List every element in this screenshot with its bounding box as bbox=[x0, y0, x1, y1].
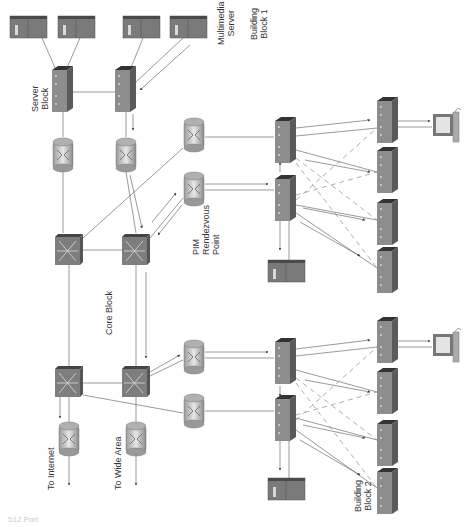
access-2c-icon bbox=[377, 420, 398, 466]
core-switch-1-icon bbox=[55, 234, 83, 265]
to-internet-label: To Internet bbox=[46, 447, 56, 490]
figure-caption: 512 Port bbox=[8, 515, 38, 524]
pim-rendezvous-point-label: PIM Rendezvous Point bbox=[191, 205, 221, 255]
multimedia-server-icon bbox=[170, 16, 207, 38]
core-switch-2-icon bbox=[122, 234, 150, 265]
pc-block2-icon bbox=[433, 328, 461, 362]
pc-block1-icon bbox=[433, 108, 461, 142]
access-1d-icon bbox=[377, 247, 398, 293]
dist-1a-icon bbox=[275, 117, 296, 163]
multimedia-server-label: Multimedia Server bbox=[216, 1, 236, 45]
server-2-icon bbox=[58, 16, 95, 38]
server-block-label: Server Block bbox=[30, 85, 50, 112]
access-1a-icon bbox=[377, 97, 398, 143]
server-block-label-line1: Server bbox=[30, 85, 40, 112]
core-block-label: Core Block bbox=[104, 291, 114, 335]
block2-server-icon bbox=[268, 478, 305, 500]
server-1-icon bbox=[10, 16, 47, 38]
pim-label-line3: Point bbox=[211, 205, 221, 255]
server-router-2-icon bbox=[116, 138, 136, 172]
access-2d-icon bbox=[377, 468, 398, 514]
access-1c-icon bbox=[377, 199, 398, 245]
pim-router-icon bbox=[184, 172, 204, 206]
dist-1b-icon bbox=[275, 175, 296, 221]
building-block-1-label-line2: Block 1 bbox=[259, 8, 269, 40]
building-block-2-label-line1: Building bbox=[353, 480, 363, 512]
internet-router-icon bbox=[59, 422, 79, 456]
access-2a-icon bbox=[377, 317, 398, 363]
server-block-label-line2: Block bbox=[40, 85, 50, 112]
server-3-icon bbox=[123, 16, 160, 38]
block1-router-icon bbox=[184, 118, 204, 152]
access-1b-icon bbox=[377, 147, 398, 193]
core-switch-4-icon bbox=[122, 366, 150, 397]
dist-2b-icon bbox=[275, 395, 296, 441]
building-block-1-label: Building Block 1 bbox=[249, 8, 269, 40]
pim-label-line1: PIM bbox=[191, 205, 201, 255]
network-diagram bbox=[0, 0, 470, 527]
wan-router-icon bbox=[126, 422, 146, 456]
core-switch-3-icon bbox=[55, 366, 83, 397]
block2-router-2-icon bbox=[184, 394, 204, 428]
building-block-2-label-line2: Block 2 bbox=[363, 480, 373, 512]
server-switch-1-icon bbox=[52, 66, 73, 112]
server-router-1-icon bbox=[53, 138, 73, 172]
dist-2a-icon bbox=[275, 338, 296, 384]
building-block-2-label: Building Block 2 bbox=[353, 480, 373, 512]
multimedia-server-label-line2: Server bbox=[226, 1, 236, 45]
building-block-1-label-line1: Building bbox=[249, 8, 259, 40]
access-2b-icon bbox=[377, 368, 398, 414]
block2-router-1-icon bbox=[184, 340, 204, 374]
block1-server-icon bbox=[268, 260, 305, 282]
pim-label-line2: Rendezvous bbox=[201, 205, 211, 255]
to-wide-area-label: To Wide Area bbox=[113, 436, 123, 490]
server-switch-2-icon bbox=[115, 66, 136, 112]
multimedia-server-label-line1: Multimedia bbox=[216, 1, 226, 45]
